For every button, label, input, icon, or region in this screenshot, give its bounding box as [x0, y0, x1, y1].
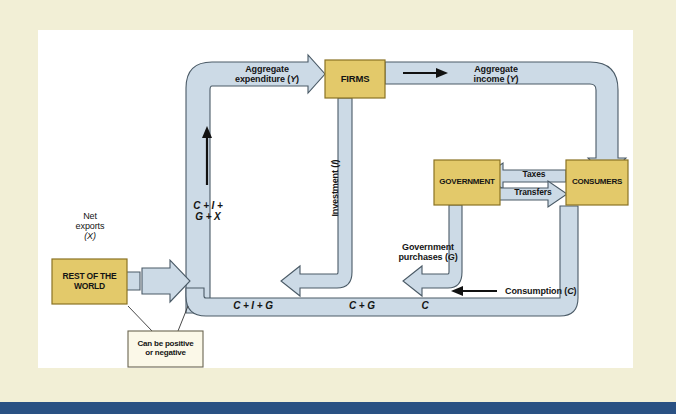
bottom-accent-bar [0, 402, 676, 414]
net-exports-label: Net exports (X) [56, 211, 124, 241]
transfers-label: Transfers [505, 188, 561, 198]
government-purchases-line2: purchases ( [398, 252, 447, 262]
cigx-line2: G + X [182, 211, 234, 222]
aggregate-income-line2: income ( [473, 74, 509, 84]
cg-equation-label: C + G [338, 300, 386, 311]
aggregate-expenditure-label: Aggregate expenditure (Y) [224, 64, 310, 84]
government-label: GOVERNMENT [434, 160, 500, 205]
note-text: Can be positive or negative [128, 331, 203, 367]
cigx-equation-label: C + I + G + X [182, 200, 234, 222]
consumption-close: ) [574, 286, 577, 296]
net-exports-line1: Net [56, 211, 124, 221]
investment-label: Investment (I) [330, 140, 340, 236]
investment-var: I [330, 162, 340, 164]
consumption-text: Consumption ( [505, 286, 567, 296]
note-leader-left [128, 306, 152, 331]
government-purchases-var: G [448, 252, 455, 262]
consumption-direction-arrow [451, 286, 497, 296]
aggregate-income-close: ) [516, 74, 519, 84]
consumption-label: Consumption (C) [505, 286, 615, 296]
cigx-line1: C + I + [182, 200, 234, 211]
figure-page: .pipe { fill: #ccdae6; stroke: #4a5a66; … [0, 0, 676, 414]
rest-of-world-label-line2: WORLD [74, 282, 105, 292]
note-line2: or negative [145, 349, 185, 358]
net-exports-line3: (X) [56, 231, 124, 241]
note-leader-right [178, 306, 188, 331]
c-equation-label: C [417, 300, 433, 311]
aggregate-expenditure-line1: Aggregate [224, 64, 310, 74]
aggregate-income-line1: Aggregate [460, 64, 532, 74]
aggregate-income-label: Aggregate income (Y) [460, 64, 532, 84]
rest-of-world-label: REST OF THE WORLD [52, 259, 127, 304]
cig-equation-label: C + I + G [222, 300, 284, 311]
government-purchases-close: ) [455, 252, 458, 262]
net-exports-line2: exports [56, 221, 124, 231]
investment-close: ) [330, 159, 340, 162]
consumers-label: CONSUMERS [566, 160, 628, 205]
taxes-label: Taxes [508, 170, 560, 180]
government-purchases-line1: Government [378, 242, 478, 252]
investment-pipe [281, 98, 352, 296]
aggregate-expenditure-line2: expenditure ( [235, 74, 290, 84]
investment-text: Investment ( [330, 165, 340, 217]
government-purchases-label: Government purchases (G) [378, 242, 478, 262]
aggregate-expenditure-close: ) [296, 74, 299, 84]
firms-label: FIRMS [325, 60, 385, 98]
